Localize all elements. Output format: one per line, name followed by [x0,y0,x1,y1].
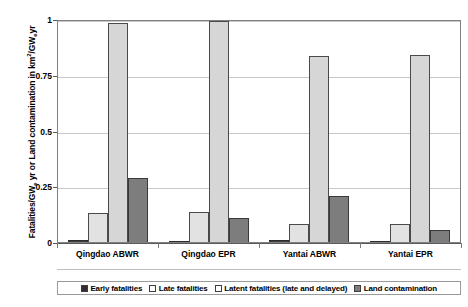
plot-area [57,20,461,243]
y-axis-title-part1: Fatalities/GW [27,186,37,239]
bar [329,196,349,242]
bar [309,56,329,242]
x-axis-label: Qingdao ABWR [57,249,158,259]
bar [189,212,209,242]
legend-label: Early fatalities [90,284,142,293]
legend-item[interactable]: Late fatalities [149,284,207,293]
bar [229,218,249,242]
x-axis-tick [259,243,260,248]
bar [169,241,189,243]
x-axis-underline [57,269,461,270]
bar [269,240,289,242]
bar-chart: Fatalities/GWe yr or Land contamination … [0,0,468,307]
x-axis-tick [158,243,159,248]
legend-swatch-icon [354,285,361,292]
y-axis-tick-label: 0.75 [6,71,52,81]
legend-item[interactable]: Latent fatalities (late and delayed) [215,284,348,293]
y-axis-title-sub-e2: e [32,34,38,37]
bar [68,240,88,242]
bar [108,23,128,242]
bar-group [259,21,360,242]
legend-label: Late fatalities [159,284,208,293]
x-axis-label: Qingdao EPR [158,249,259,259]
bar-groups [58,21,460,242]
y-axis-tick-label: 0.5 [6,127,52,137]
legend-label: Latent fatalities (late and delayed) [224,284,347,293]
bar [88,213,108,242]
y-axis-title-sup-2: 2 [26,53,32,56]
y-axis-tick-label: 1 [6,15,52,25]
bar [390,224,410,242]
legend-swatch-icon [81,285,88,292]
chart-legend: Early fatalitiesLate fatalitiesLatent fa… [57,281,461,295]
x-axis-label: Yantai ABWR [259,249,360,259]
bar-group [159,21,260,242]
legend-swatch-icon [149,285,156,292]
y-axis-title-part4: /GW [27,37,37,54]
bar [209,21,229,242]
legend-item[interactable]: Early fatalities [81,284,142,293]
bar [289,224,309,242]
legend-swatch-icon [215,285,222,292]
y-axis-tick-label: 0.25 [6,182,52,192]
legend-item[interactable]: Land contamination [354,284,437,293]
x-axis-label: Yantai EPR [360,249,461,259]
x-axis-tick [57,243,58,248]
y-axis-tick-label: 0 [6,238,52,248]
bar-group [360,21,461,242]
x-axis-labels: Qingdao ABWRQingdao EPRYantai ABWRYantai… [57,249,461,259]
bar [430,230,450,242]
x-axis-tick [461,243,462,248]
bar [410,55,430,242]
bar-group [58,21,159,242]
x-axis-tick [360,243,361,248]
bar [128,178,148,242]
legend-label: Land contamination [364,284,437,293]
bar [370,241,390,243]
